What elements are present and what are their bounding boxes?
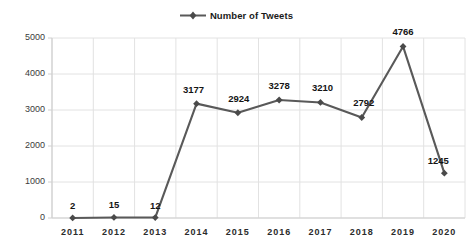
y-tick-label: 3000	[25, 104, 45, 114]
data-point-label: 2924	[228, 93, 250, 104]
data-point-marker	[317, 99, 324, 106]
x-tick-label: 2014	[185, 227, 209, 237]
data-point-marker	[276, 97, 283, 104]
data-point-label: 1245	[428, 155, 450, 166]
x-tick-label: 2012	[102, 227, 126, 237]
data-point-marker	[441, 170, 448, 177]
tweets-line-chart: Number of Tweets 010002000300040005000 2…	[0, 0, 473, 251]
y-tick-label: 5000	[25, 32, 45, 42]
data-point-label: 4766	[392, 26, 413, 37]
x-tick-label: 2017	[308, 227, 332, 237]
data-point-label: 12	[150, 200, 161, 211]
data-point-label: 3210	[312, 82, 333, 93]
data-point-label: 15	[109, 199, 120, 210]
y-tick-label: 2000	[25, 140, 45, 150]
data-point-label: 2792	[353, 97, 374, 108]
data-point-label: 3278	[269, 80, 290, 91]
x-axis-tick-labels: 2011201220132014201520162017201820192020	[61, 227, 456, 237]
data-point-marker	[193, 100, 200, 107]
y-axis-tick-labels: 010002000300040005000	[25, 32, 52, 222]
y-tick-label: 0	[40, 212, 45, 222]
plot-area: 010002000300040005000 201120122013201420…	[0, 0, 473, 251]
y-tick-label: 4000	[25, 68, 45, 78]
y-tick-label: 1000	[25, 176, 45, 186]
data-point-label: 2	[70, 200, 75, 211]
data-point-label: 3177	[183, 84, 204, 95]
x-tick-label: 2016	[267, 227, 291, 237]
x-tick-label: 2018	[350, 227, 374, 237]
data-point-marker	[69, 215, 76, 222]
x-tick-label: 2011	[61, 227, 85, 237]
x-tick-label: 2015	[226, 227, 250, 237]
x-tick-label: 2019	[391, 227, 415, 237]
x-tick-label: 2013	[143, 227, 167, 237]
grid-lines	[52, 38, 465, 218]
data-point-marker	[152, 214, 159, 221]
x-tick-label: 2020	[432, 227, 456, 237]
data-point-marker	[111, 214, 118, 221]
data-point-labels: 215123177292432783210279247661245	[70, 26, 450, 211]
